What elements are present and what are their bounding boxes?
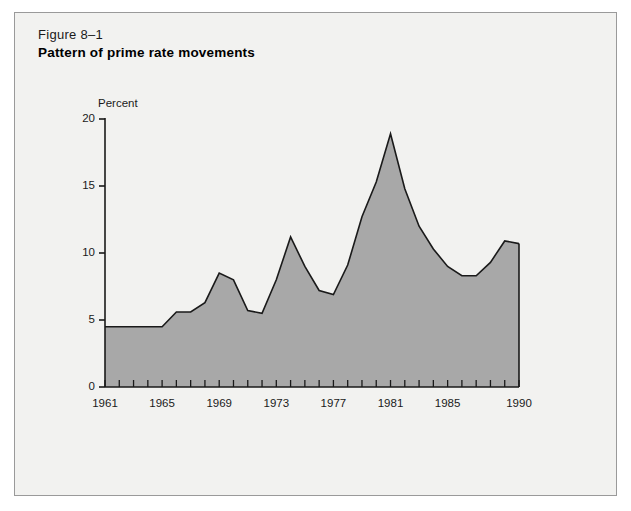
y-axis-tick-label: 15 [69,179,95,191]
chart-series-group [105,134,519,387]
y-axis-title: Percent [98,97,138,109]
x-axis-tick-label: 1981 [369,397,413,409]
y-axis-tick-label: 5 [69,313,95,325]
y-axis-tick-label: 10 [69,246,95,258]
x-axis-tick-label: 1961 [83,397,127,409]
y-axis-tick-label: 0 [69,380,95,392]
x-axis-tick-label: 1985 [426,397,470,409]
y-axis-tick-label: 20 [69,112,95,124]
prime-rate-area-chart [15,13,617,496]
x-axis-tick-label: 1977 [311,397,355,409]
x-axis-tick-label: 1973 [254,397,298,409]
x-axis-tick-label: 1969 [197,397,241,409]
figure-panel: Figure 8–1 Pattern of prime rate movemen… [14,12,617,496]
chart-plot-area: Percent 20151050 19611965196919731977198… [15,13,617,496]
x-axis-tick-label: 1990 [497,397,541,409]
chart-area-fill [105,134,519,387]
x-axis-tick-label: 1965 [140,397,184,409]
